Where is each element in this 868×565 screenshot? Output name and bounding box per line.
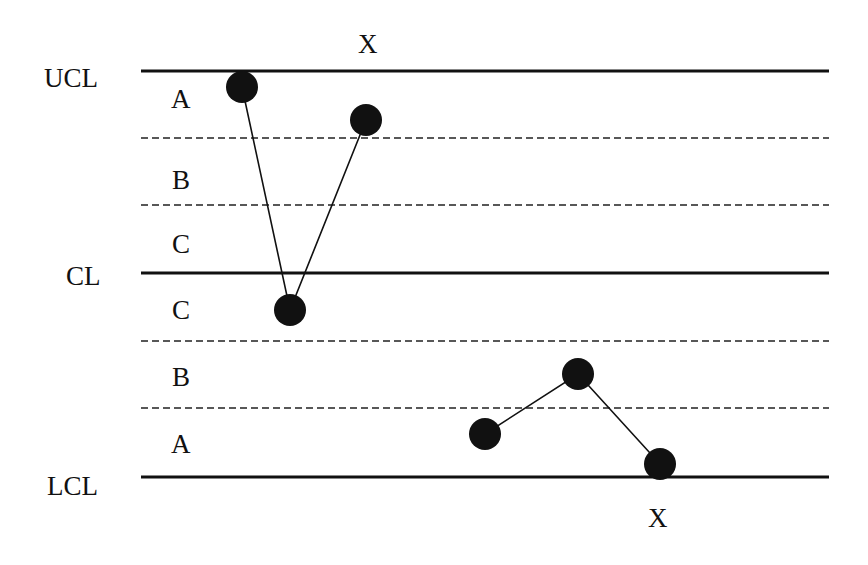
data-point bbox=[644, 448, 676, 480]
violation-mark-bottom: X bbox=[648, 505, 668, 532]
zone-b-lower-label: B bbox=[172, 364, 190, 391]
control-chart: UCL CL LCL A B C C B A X X bbox=[0, 0, 868, 565]
data-point bbox=[274, 294, 306, 326]
ucl-label: UCL bbox=[44, 65, 98, 92]
zone-c-upper-label: C bbox=[172, 231, 190, 258]
zone-b-upper-label: B bbox=[172, 167, 190, 194]
chart-plot bbox=[0, 0, 868, 565]
violation-mark-top: X bbox=[358, 31, 378, 58]
data-point bbox=[350, 104, 382, 136]
cl-label: CL bbox=[66, 263, 101, 290]
data-point bbox=[562, 358, 594, 390]
data-point bbox=[469, 418, 501, 450]
zone-c-lower-label: C bbox=[172, 297, 190, 324]
upper-run-line bbox=[242, 87, 366, 310]
lcl-label: LCL bbox=[47, 473, 98, 500]
data-point bbox=[226, 71, 258, 103]
zone-a-upper-label: A bbox=[171, 86, 191, 113]
zone-a-lower-label: A bbox=[171, 431, 191, 458]
